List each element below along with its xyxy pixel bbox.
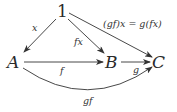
object-b: B [105,54,118,71]
label-fx: fx [74,37,83,47]
label-g: g [133,65,139,75]
commutative-diagram: 1 A B C x fx (gf)x = g(fx) f g gf [0,0,177,112]
object-1: 1 [57,3,68,20]
label-x: x [32,23,37,33]
label-gfx: (gf)x = g(fx) [103,19,162,29]
arrow-x [24,19,56,52]
object-c: C [152,54,165,71]
object-a: A [7,54,19,71]
label-gf: gf [83,96,93,106]
label-f: f [60,66,64,76]
